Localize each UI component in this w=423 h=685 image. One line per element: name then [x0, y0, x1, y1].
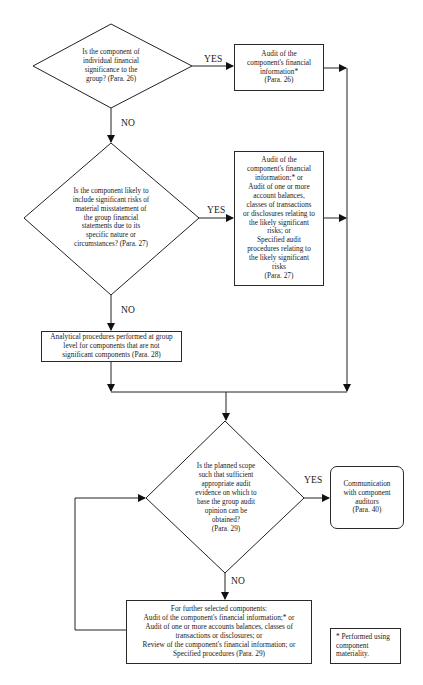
process-audit-financial-info: Audit of the component's financial infor…	[234, 44, 324, 91]
decision-2-text: Is the component likely to include signi…	[49, 170, 173, 266]
process-further-selected-components: For further selected components: Audit o…	[126, 600, 312, 664]
edge-label-d2-yes: YES	[207, 205, 226, 215]
edge-label-d2-no: NO	[121, 305, 135, 315]
decision-1-text: Is the component of individual financial…	[58, 40, 164, 92]
terminal-communication-with-auditors: Communication with component auditors (P…	[330, 466, 404, 529]
edge-label-d3-no: NO	[231, 576, 245, 586]
process-analytical-procedures: Analytical procedures performed at group…	[41, 331, 182, 362]
edge-label-d3-yes: YES	[304, 475, 323, 485]
footnote-box: * Performed using component materiality.	[330, 628, 401, 664]
edge-label-d1-yes: YES	[204, 54, 223, 64]
process-audit-significant-risks: Audit of the component's financial infor…	[234, 151, 324, 286]
edge-label-d1-no: NO	[121, 118, 135, 128]
decision-3-text: Is the planned scope such that sufficien…	[170, 445, 282, 551]
